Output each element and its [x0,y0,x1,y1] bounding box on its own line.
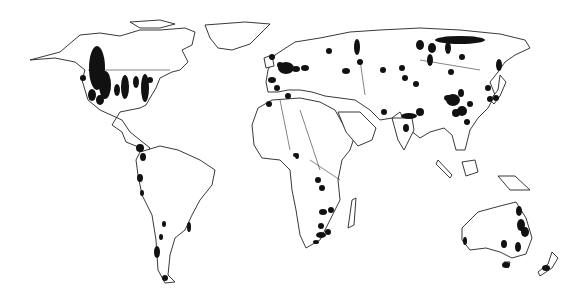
marked-spot [515,242,521,252]
marked-spot [501,240,507,248]
marked-spot [457,106,467,116]
marked-spot [268,77,276,83]
marked-spot [487,96,493,102]
marked-spot [316,232,326,238]
marked-spot [496,59,502,71]
marked-spot [137,174,143,182]
marked-spot [140,190,144,196]
marked-spot [136,144,144,152]
marked-spot [269,54,275,60]
marked-spot [278,62,294,74]
marked-spot [285,93,291,99]
marked-spot [342,68,350,74]
marked-spot [328,207,334,213]
new-zealand [538,252,558,276]
marked-spot [357,59,363,65]
marked-spot [485,85,491,91]
marked-spot [463,237,467,245]
marked-spot [380,67,386,73]
marked-spot [402,75,408,81]
marked-spot [274,85,280,91]
marked-spot [80,75,86,81]
marked-spot [416,40,424,50]
marked-spot [381,109,387,115]
marked-spot [516,206,522,216]
north-america [30,28,195,155]
world-map-svg [0,0,587,305]
borneo [462,160,478,176]
marked-spot [458,89,464,97]
south-america [136,146,215,283]
marked-spot [140,153,146,161]
marked-spot [133,76,139,88]
marked-spot [448,69,454,75]
marked-spot [318,223,324,229]
marked-spot [147,77,153,83]
marked-spot [542,265,550,271]
marked-spot [187,222,191,232]
marked-spot [521,227,529,237]
marked-spot [435,36,485,44]
marked-spot [427,54,433,66]
marked-spot [319,209,327,215]
marked-spot [326,48,332,54]
marked-spot [313,240,319,244]
marked-spot [459,54,465,60]
new-guinea [498,176,530,190]
marked-spot [445,42,451,54]
madagascar [348,198,356,228]
indonesia-sumatra [436,160,452,178]
arctic-islands [130,20,175,28]
marked-spot [354,39,360,55]
marked-spot [401,113,417,119]
marked-spot [293,153,297,157]
marked-spot [319,185,325,191]
india [392,118,414,150]
marked-spot [493,95,499,101]
marked-spot [467,101,473,107]
marked-spot [121,75,129,99]
marked-spot [315,177,321,183]
marked-spot [292,66,300,72]
marked-spot [159,234,163,240]
marked-spot [325,229,331,235]
marked-spot [301,65,309,71]
marked-spot [162,275,168,281]
marked-spot [154,246,160,258]
marked-spot [162,221,166,227]
marked-spot [99,71,111,99]
marked-spot [399,65,405,71]
marked-spot [114,84,120,96]
marked-spot [403,124,409,132]
greenland [205,22,270,50]
marked-spot [502,262,510,268]
marked-spot [428,43,436,53]
marked-spot [413,81,419,87]
marked-spot [88,89,96,101]
marked-spot [266,101,272,107]
marked-spot [464,119,470,125]
marked-spot [446,94,460,106]
world-map [0,0,587,305]
marked-spot [416,108,424,116]
marked-spot [96,95,104,105]
